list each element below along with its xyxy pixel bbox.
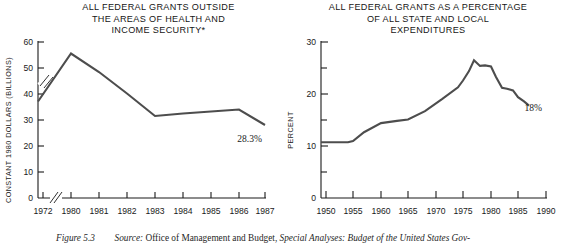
chart-panel-right: ALL FEDERAL GRANTS AS A PERCENTAGE OF AL… (281, 0, 561, 232)
caption-source-text: Office of Management and Budget, (145, 233, 279, 243)
left-end-value-label: 28.3% (237, 133, 262, 144)
left-x-tick-label-1972: 1972 (33, 206, 52, 216)
left-x-tick-label-1983: 1983 (145, 206, 164, 216)
left-y-tick-50: 50 (23, 63, 33, 73)
right-x-tick-label-1950: 1950 (316, 206, 335, 216)
right-x-tick-label-1975: 1975 (453, 206, 472, 216)
right-y-tick-10: 10 (306, 141, 316, 151)
left-y-tick-0: 0 (28, 193, 33, 203)
figure-caption: Figure 5.3 Source: Office of Management … (0, 233, 561, 251)
right-chart-plot: PERCENT 30 20 10 0 (281, 0, 561, 232)
left-x-tick-label-1980: 1980 (61, 206, 80, 216)
caption-source-title: Special Analyses: Budget of the United S… (280, 233, 471, 243)
right-y-tick-20: 20 (306, 89, 316, 99)
right-y-tick-0: 0 (311, 193, 316, 203)
left-x-tick-label-1981: 1981 (89, 206, 108, 216)
left-x-tick-label-1987: 1987 (255, 206, 274, 216)
left-y-tick-10: 10 (23, 167, 33, 177)
right-x-tick-label-1985: 1985 (508, 206, 527, 216)
left-chart-plot: CONSTANT 1980 DOLLARS (BILLIONS) 60 50 4… (0, 0, 281, 232)
right-y-tick-30: 30 (306, 37, 316, 47)
right-data-line (321, 60, 529, 142)
left-y-tick-30: 30 (23, 115, 33, 125)
left-x-tick-label-1985: 1985 (201, 206, 220, 216)
left-y-tick-40: 40 (23, 89, 33, 99)
left-y-axis-label: CONSTANT 1980 DOLLARS (BILLIONS) (4, 57, 13, 203)
right-x-tick-label-1955: 1955 (343, 206, 362, 216)
right-y-axis-label: PERCENT (286, 111, 295, 149)
left-y-tick-60: 60 (23, 37, 33, 47)
left-x-tick-label-1984: 1984 (173, 206, 192, 216)
left-x-tick-label-1982: 1982 (117, 206, 136, 216)
left-data-line (38, 54, 265, 126)
right-x-tick-label-1960: 1960 (371, 206, 390, 216)
right-x-tick-label-1965: 1965 (398, 206, 417, 216)
chart-panel-left: ALL FEDERAL GRANTS OUTSIDE THE AREAS OF … (0, 0, 281, 232)
left-x-tick-label-1986: 1986 (229, 206, 248, 216)
right-x-tick-label-1970: 1970 (426, 206, 445, 216)
right-x-tick-label-1990: 1990 (536, 206, 555, 216)
right-end-value-label: 18% (524, 102, 542, 113)
left-y-break-slash-1 (40, 75, 49, 86)
figure-number: Figure 5.3 (56, 233, 95, 243)
figure-container: ALL FEDERAL GRANTS OUTSIDE THE AREAS OF … (0, 0, 561, 251)
caption-source-label: Source: (115, 233, 144, 243)
left-y-tick-20: 20 (23, 141, 33, 151)
right-x-tick-label-1980: 1980 (481, 206, 500, 216)
